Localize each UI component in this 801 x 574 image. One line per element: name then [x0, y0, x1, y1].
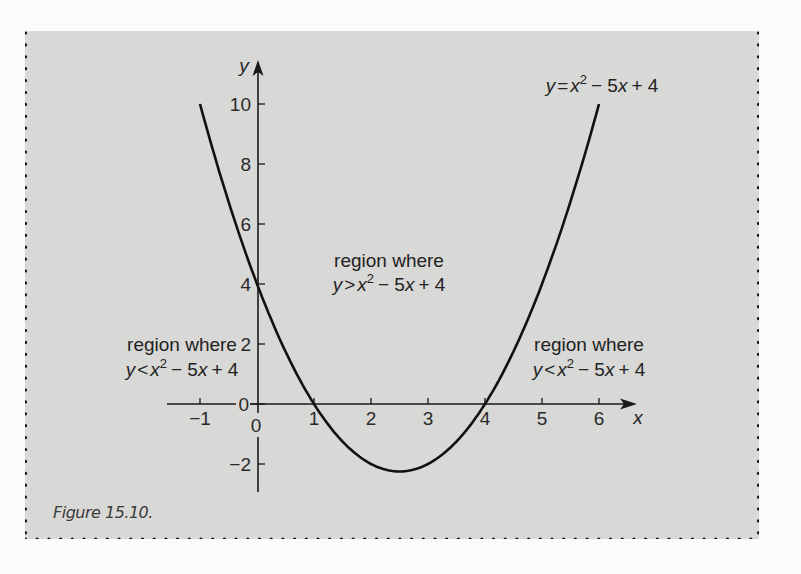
region-above-label: region where y>x2− 5x+ 4: [331, 250, 446, 295]
svg-text:y<x2− 5x+ 4: y<x2− 5x+ 4: [124, 356, 239, 380]
figure-panel: −10123456−20246810 y x y=x2− 5x+ 4 regio…: [25, 31, 759, 539]
x-tick-label: 5: [537, 408, 548, 429]
y-tick-label: 0: [238, 394, 249, 415]
svg-text:region where: region where: [127, 334, 237, 355]
y-tick-label: 2: [240, 334, 251, 355]
region-below-right-label: region where y<x2− 5x+ 4: [531, 334, 646, 380]
y-tick-label: 8: [240, 154, 251, 175]
y-tick-label: 10: [230, 94, 251, 115]
x-tick-label: 2: [366, 408, 377, 429]
y-tick-label: −2: [229, 454, 251, 475]
region-below-left-label: region where y<x2− 5x+ 4: [124, 334, 239, 380]
curve-equation-label: y=x2− 5x+ 4: [544, 72, 659, 96]
y-tick-label: 4: [240, 274, 251, 295]
x-tick-label: 0: [251, 415, 262, 436]
figure-caption: Figure 15.10.: [53, 503, 153, 522]
svg-text:y>x2− 5x+ 4: y>x2− 5x+ 4: [331, 271, 446, 295]
x-tick-label: 6: [594, 408, 605, 429]
y-tick-label: 6: [240, 214, 251, 235]
svg-text:region where: region where: [334, 250, 444, 271]
svg-text:y<x2− 5x+ 4: y<x2− 5x+ 4: [531, 356, 646, 380]
parabola-chart: −10123456−20246810 y x y=x2− 5x+ 4 regio…: [25, 31, 759, 539]
x-axis-label: x: [632, 407, 644, 428]
svg-text:region where: region where: [534, 334, 644, 355]
x-tick-label: 3: [423, 408, 434, 429]
x-tick-label: −1: [189, 408, 211, 429]
y-axis-label: y: [237, 55, 250, 76]
